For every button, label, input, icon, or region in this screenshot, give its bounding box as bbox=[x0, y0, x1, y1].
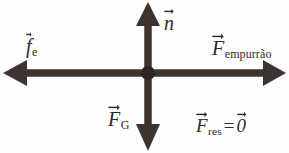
gravity-vector-arrowhead bbox=[136, 124, 160, 151]
gravity-vector-subscript: G bbox=[121, 119, 130, 131]
push-vector-letter: F bbox=[212, 38, 224, 58]
equals-sign: = bbox=[224, 116, 235, 135]
normal-vector-symbol-group: n bbox=[164, 8, 174, 33]
gravity-vector-letter: F bbox=[108, 109, 120, 129]
resultant-force-subscript: res bbox=[208, 126, 222, 137]
push-vector-subscript: empurrão bbox=[225, 48, 272, 60]
force-diagram: f e n F empurrão F G bbox=[0, 0, 289, 153]
zero-vector-letter: 0 bbox=[236, 116, 246, 135]
normal-vector-letter: n bbox=[164, 13, 174, 33]
resultant-force-letter: F bbox=[196, 116, 208, 135]
friction-vector-subscript: e bbox=[32, 46, 37, 58]
gravity-vector-label: F G bbox=[108, 104, 130, 131]
resultant-force-symbol-group: F bbox=[196, 111, 208, 135]
push-vector-arrowhead bbox=[263, 60, 286, 86]
friction-vector-label: f e bbox=[26, 31, 38, 58]
resultant-force-equation: F res= 0 bbox=[196, 111, 246, 138]
normal-vector-label: n bbox=[164, 8, 175, 33]
friction-vector-letter: f bbox=[26, 36, 32, 56]
normal-vector-arrowhead bbox=[136, 2, 160, 26]
push-vector-symbol-group: F bbox=[212, 33, 224, 58]
friction-vector-arrowhead bbox=[3, 60, 27, 86]
gravity-vector-symbol-group: F bbox=[108, 104, 120, 129]
friction-vector-symbol-group: f bbox=[26, 31, 32, 56]
zero-vector-symbol-group: 0 bbox=[236, 111, 246, 135]
push-vector-label: F empurrão bbox=[212, 33, 272, 60]
center-dot bbox=[141, 66, 155, 80]
